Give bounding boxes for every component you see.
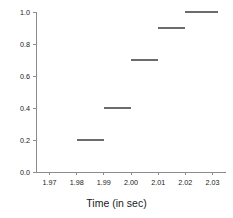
x-tick-label: 2.03 bbox=[205, 178, 219, 187]
y-tick-label: 1.0 bbox=[20, 8, 30, 17]
step-series bbox=[77, 12, 218, 140]
y-tick-label: 0.6 bbox=[20, 72, 30, 81]
y-tick-label: 0.0 bbox=[20, 168, 30, 177]
x-axis-title: Time (in sec) bbox=[86, 197, 146, 209]
y-tick-label: 0.8 bbox=[20, 40, 30, 49]
x-tick-label: 1.98 bbox=[70, 178, 84, 187]
x-tick-labels: 1.971.981.992.002.012.022.03 bbox=[43, 178, 220, 187]
chart-canvas: 0.00.20.40.60.81.0 1.971.981.992.002.012… bbox=[0, 0, 233, 218]
x-tick-label: 2.01 bbox=[151, 178, 165, 187]
y-tick-labels: 0.00.20.40.60.81.0 bbox=[20, 8, 30, 177]
y-tick-label: 0.2 bbox=[20, 136, 30, 145]
x-tick-label: 2.02 bbox=[178, 178, 192, 187]
x-tick-label: 1.97 bbox=[43, 178, 57, 187]
x-tick-label: 1.99 bbox=[97, 178, 111, 187]
y-tick-label: 0.4 bbox=[20, 104, 30, 113]
x-tick-label: 2.00 bbox=[124, 178, 138, 187]
step-chart: 0.00.20.40.60.81.0 1.971.981.992.002.012… bbox=[0, 0, 233, 218]
